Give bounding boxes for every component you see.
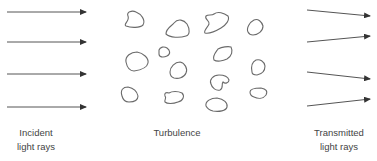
eddy-blob-icon [125, 11, 144, 27]
eddy-blob-icon [159, 47, 170, 57]
eddy-blob-icon [166, 20, 189, 37]
eddy-blob-icon [252, 60, 265, 75]
transmitted-ray-arrow-icon [307, 99, 370, 106]
incident-label-line-1: Incident [19, 127, 53, 138]
transmitted-label-line-2: light rays [320, 141, 358, 152]
transmitted-ray-arrow-icon [307, 10, 370, 16]
turbulence-eddies [121, 11, 266, 111]
eddy-blob-icon [170, 62, 187, 78]
incident-label-line-2: light rays [17, 141, 55, 152]
eddy-blob-icon [205, 13, 229, 34]
turbulence-label: Turbulence [153, 127, 200, 138]
turbulence-diagram: Incident light rays Turbulence Transmitt… [0, 0, 377, 161]
eddy-blob-icon [250, 88, 267, 98]
transmitted-ray-arrow-icon [307, 72, 370, 79]
eddy-blob-icon [126, 52, 148, 71]
eddy-blob-icon [213, 47, 232, 61]
eddy-blob-icon [165, 92, 184, 104]
transmitted-rays [307, 10, 370, 106]
eddy-blob-icon [206, 98, 227, 111]
eddy-blob-icon [210, 75, 229, 90]
eddy-blob-icon [121, 87, 138, 102]
transmitted-ray-arrow-icon [307, 36, 370, 42]
eddy-blob-icon [247, 19, 263, 35]
transmitted-label-line-1: Transmitted [314, 127, 364, 138]
incident-rays [7, 12, 86, 107]
